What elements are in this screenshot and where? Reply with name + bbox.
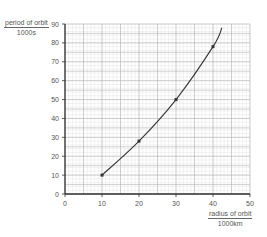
- y-tick-label: 70: [51, 58, 59, 65]
- y-tick-label: 90: [51, 21, 59, 28]
- y-tick-label: 20: [51, 153, 59, 160]
- y-tick-label: 60: [51, 77, 59, 84]
- y-tick-label: 50: [51, 96, 59, 103]
- x-tick-label: 20: [135, 200, 143, 207]
- y-axis-label: period of orbit 1000s: [4, 18, 49, 37]
- x-tick-label: 40: [209, 200, 217, 207]
- data-point-marker: [212, 45, 215, 48]
- x-tick-label: 30: [172, 200, 180, 207]
- y-axis-label-top: period of orbit: [4, 18, 49, 28]
- y-tick-label: 30: [51, 134, 59, 141]
- x-axis-label-top: radius of orbit: [208, 209, 252, 219]
- x-axis-label: radius of orbit 1000km: [208, 209, 252, 228]
- x-tick-label: 50: [246, 200, 254, 207]
- data-point-marker: [101, 174, 104, 177]
- y-tick-label: 80: [51, 39, 59, 46]
- y-tick-label: 0: [55, 191, 59, 198]
- series-line: [102, 28, 222, 175]
- x-tick-label: 0: [63, 200, 67, 207]
- y-tick-label: 40: [51, 115, 59, 122]
- y-tick-label: 10: [51, 172, 59, 179]
- x-axis-label-bottom: 1000km: [208, 219, 252, 228]
- data-point-marker: [175, 98, 178, 101]
- x-tick-label: 10: [98, 200, 106, 207]
- data-point-marker: [138, 140, 141, 143]
- grid: [65, 24, 250, 194]
- y-axis-label-bottom: 1000s: [4, 28, 49, 37]
